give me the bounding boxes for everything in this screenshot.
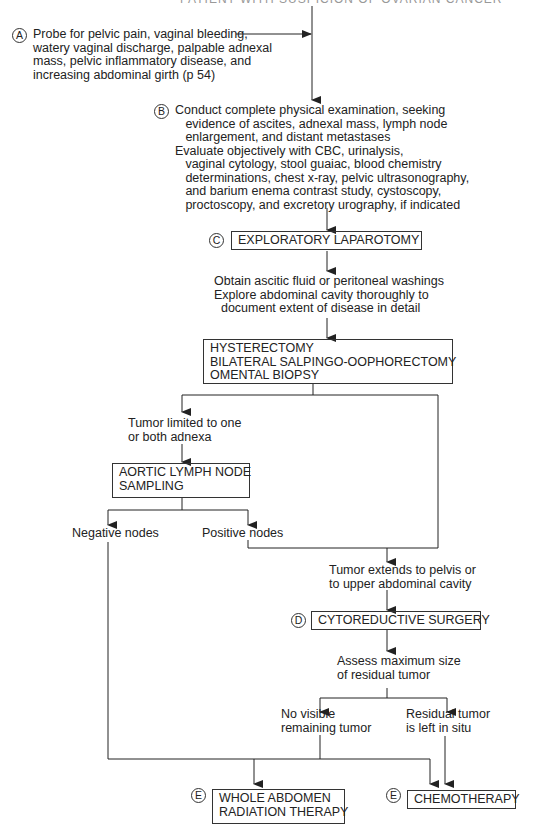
radiation-therapy-box: WHOLE ABDOMEN RADIATION THERAPY xyxy=(212,789,345,824)
assess-residual-text: Assess maximum size of residual tumor xyxy=(337,655,461,682)
tumor-limited-text: Tumor limited to one or both adnexa xyxy=(128,417,241,444)
no-visible-tumor-text: No visible remaining tumor xyxy=(281,708,371,735)
step-marker-d: D xyxy=(291,613,306,628)
step-marker-e-chemo: E xyxy=(386,788,401,803)
positive-nodes-text: Positive nodes xyxy=(202,527,283,541)
exploratory-laparotomy-box: EXPLORATORY LAPAROTOMY xyxy=(231,231,422,250)
step-marker-b: B xyxy=(154,104,169,119)
chemotherapy-box: CHEMOTHERAPY xyxy=(407,790,516,809)
residual-tumor-text: Residual tumor is left in situ xyxy=(406,708,490,735)
step-marker-a: A xyxy=(12,28,27,43)
step-marker-c: C xyxy=(209,233,224,248)
step-a-text: Probe for pelvic pain, vaginal bleeding,… xyxy=(33,28,272,82)
obtain-washings-text: Obtain ascitic fluid or peritoneal washi… xyxy=(214,275,444,316)
cytoreductive-surgery-box: CYTOREDUCTIVE SURGERY xyxy=(311,611,481,630)
negative-nodes-text: Negative nodes xyxy=(72,527,159,541)
hysterectomy-box: HYSTERECTOMY BILATERAL SALPINGO-OOPHOREC… xyxy=(203,339,453,384)
aortic-lymph-node-box: AORTIC LYMPH NODE SAMPLING xyxy=(112,463,250,498)
step-marker-e-radiation: E xyxy=(191,788,206,803)
tumor-extends-text: Tumor extends to pelvis or to upper abdo… xyxy=(329,564,476,591)
step-b-text: Conduct complete physical examination, s… xyxy=(175,104,469,212)
